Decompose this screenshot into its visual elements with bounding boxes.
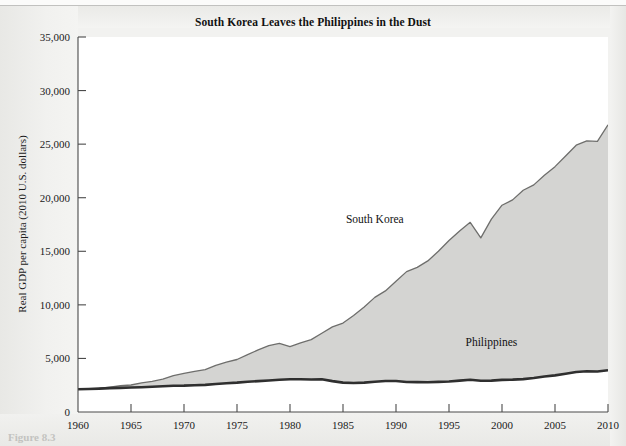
x-axis-tick-label: 1980 [279,419,302,431]
x-axis-tick-label: 1970 [173,419,196,431]
series-label-south-korea: South Korea [346,213,404,225]
y-axis-tick-label: 30,000 [40,85,71,97]
x-axis-tick-label: 2005 [544,419,567,431]
y-axis-tick-labels: 05,00010,00015,00020,00025,00030,00035,0… [40,31,71,418]
figure-caption: Figure 8.3 [8,433,55,443]
y-axis-tick-label: 20,000 [40,192,71,204]
y-axis-tick-label: 10,000 [40,299,71,311]
y-axis-tick-label: 5,000 [45,352,70,364]
x-axis-tick-labels: 1960196519701975198019851990199520002005… [67,419,620,431]
y-axis-title: Real GDP per capita (2010 U.S. dollars) [16,135,29,313]
x-axis-tick-label: 1985 [332,419,355,431]
x-axis-tick-label: 1995 [438,419,461,431]
y-axis-tick-label: 25,000 [40,138,71,150]
scanned-page: South Korea Leaves the Philippines in th… [0,0,626,446]
y-axis-tick-label: 0 [65,406,71,418]
series-label-philippines: Philippines [466,336,518,349]
y-axis-tick-label: 35,000 [40,31,71,43]
gdp-per-capita-area-chart: 05,00010,00015,00020,00025,00030,00035,0… [0,0,626,446]
x-axis-tick-label: 1965 [120,419,143,431]
page-caption-strip: Figure 8.3 [0,433,626,446]
x-axis-tick-label: 2000 [491,419,514,431]
x-axis-tick-label: 2010 [597,419,620,431]
x-axis-tick-label: 1960 [67,419,90,431]
x-axis-tick-label: 1990 [385,419,408,431]
y-axis-tick-label: 15,000 [40,245,71,257]
x-axis-tick-label: 1975 [226,419,249,431]
